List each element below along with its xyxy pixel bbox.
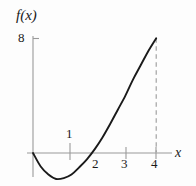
- x-tick-label-2: 2: [92, 157, 99, 170]
- figure-container: f(x) 8 1 2 3 4 x: [0, 0, 196, 186]
- x-tick-label-3: 3: [121, 157, 128, 170]
- x-axis-label: x: [175, 146, 181, 160]
- x-tick-label-4: 4: [151, 157, 158, 170]
- y-tick-label-8: 8: [18, 31, 25, 44]
- y-axis-label: f(x): [16, 8, 37, 23]
- x-tick-label-1: 1: [66, 127, 73, 140]
